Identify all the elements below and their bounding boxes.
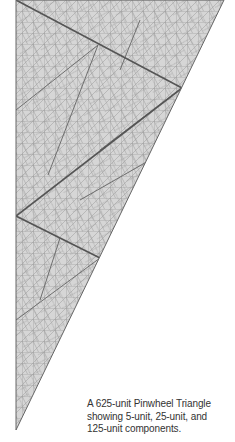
caption-line-2: showing 5-unit, 25-unit, and	[87, 411, 227, 424]
pinwheel-triangle-figure	[0, 0, 235, 442]
caption-line-1: A 625-unit Pinwheel Triangle	[87, 398, 227, 411]
caption-line-3: 125-unit components.	[87, 423, 227, 436]
figure-caption: A 625-unit Pinwheel Triangle showing 5-u…	[87, 398, 227, 436]
